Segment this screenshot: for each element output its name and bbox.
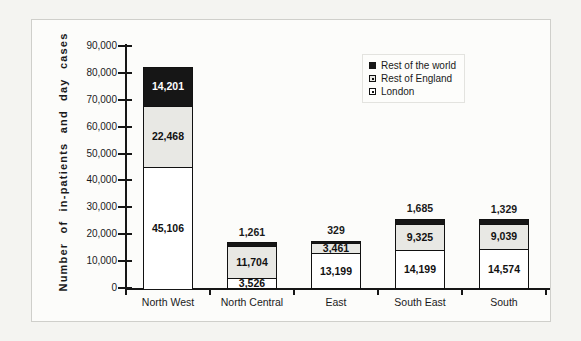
segment-value-label: 14,201 (152, 81, 184, 92)
y-axis-tick-label: 30,000 (57, 201, 117, 213)
x-axis-tick (461, 288, 463, 295)
x-axis-tick (545, 288, 547, 295)
y-axis (125, 44, 127, 295)
segment-value-label: 3,526 (239, 278, 265, 289)
segment-value-label: 13,199 (320, 266, 352, 277)
y-axis-tick-label: 70,000 (57, 94, 117, 106)
segment-value-label: 45,106 (152, 223, 184, 234)
bar-north-central: 11,7043,526 (227, 242, 277, 289)
above-bar-value-label: 1,329 (464, 203, 544, 215)
above-bar-value-label: 1,261 (212, 226, 292, 238)
x-category-label: North West (126, 296, 210, 309)
bar-segment-london: 45,106 (144, 167, 192, 289)
legend-swatch-icon (369, 62, 376, 69)
y-axis-tick-label: 20,000 (57, 228, 117, 240)
y-axis-tick (118, 260, 132, 262)
x-axis-tick (377, 288, 379, 295)
y-axis-tick (118, 126, 132, 128)
bar-east: 3,46113,199 (311, 241, 361, 290)
legend-label: Rest of the world (381, 60, 456, 72)
bar-segment-london: 13,199 (312, 253, 360, 289)
legend: Rest of the worldRest of EnglandLondon (362, 54, 465, 103)
legend-label: London (381, 86, 414, 98)
y-axis-tick (118, 233, 132, 235)
segment-value-label: 11,704 (236, 257, 268, 268)
legend-item: London (369, 85, 456, 98)
y-axis-tick-label: 40,000 (57, 174, 117, 186)
x-axis-tick (293, 288, 295, 295)
bar-south: 9,03914,574 (479, 219, 529, 289)
bar-north-west: 14,20122,46845,106 (143, 67, 193, 290)
legend-swatch-icon (369, 75, 376, 82)
bar-segment-rest-of-the-world: 14,201 (144, 68, 192, 106)
y-axis-tick (118, 153, 132, 155)
x-category-label: South (462, 296, 546, 309)
legend-swatch-icon (369, 88, 376, 95)
bar-segment-rest-of-england: 9,325 (396, 224, 444, 250)
segment-value-label: 14,574 (488, 264, 520, 275)
bar-south-east: 9,32514,199 (395, 219, 445, 290)
above-bar-value-label: 1,685 (380, 202, 460, 214)
stacked-bar-chart: Number of in-patients and day cases 010,… (0, 0, 581, 341)
y-axis-tick (118, 206, 132, 208)
segment-value-label: 9,325 (407, 232, 433, 243)
page-background: Number of in-patients and day cases 010,… (0, 0, 581, 341)
segment-value-label: 22,468 (152, 131, 184, 142)
legend-swatch-dot (372, 91, 374, 93)
bar-segment-london: 3,526 (228, 278, 276, 288)
bar-segment-rest-of-england: 22,468 (144, 106, 192, 167)
y-axis-tick-label: 50,000 (57, 148, 117, 160)
y-axis-tick-label: 10,000 (57, 255, 117, 267)
legend-item: Rest of England (369, 72, 456, 85)
y-axis-tick (118, 72, 132, 74)
bar-segment-rest-of-england: 9,039 (480, 224, 528, 249)
y-axis-tick-label: 80,000 (57, 67, 117, 79)
x-category-label: East (294, 296, 378, 309)
x-axis-tick (209, 288, 211, 295)
bar-segment-rest-of-england: 11,704 (228, 246, 276, 278)
bar-segment-rest-of-england: 3,461 (312, 243, 360, 253)
legend-swatch-dot (372, 78, 374, 80)
legend-item: Rest of the world (369, 59, 456, 72)
y-axis-tick (118, 99, 132, 101)
above-bar-value-label: 329 (296, 224, 376, 236)
bar-segment-london: 14,574 (480, 249, 528, 289)
x-category-label: North Central (210, 296, 294, 309)
y-axis-tick (118, 179, 132, 181)
legend-label: Rest of England (381, 73, 452, 85)
y-axis-tick (118, 45, 132, 47)
bar-segment-london: 14,199 (396, 250, 444, 289)
y-axis-tick-label: 90,000 (57, 40, 117, 52)
segment-value-label: 14,199 (404, 264, 436, 275)
y-axis-tick-label: 0 (57, 282, 117, 294)
x-category-label: South East (378, 296, 462, 309)
y-axis-tick-label: 60,000 (57, 121, 117, 133)
segment-value-label: 9,039 (491, 231, 517, 242)
